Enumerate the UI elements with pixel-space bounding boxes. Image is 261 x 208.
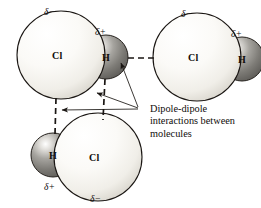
caption-line-3: molecules — [150, 128, 258, 140]
charge-label-h-top-left: δ+ — [95, 27, 106, 37]
leader-line-horizontal-bond — [121, 63, 138, 107]
atom-label-cl-top-left: Cl — [52, 50, 62, 61]
atom-label-h-top-right: H — [238, 54, 246, 65]
atom-label-cl-bottom: Cl — [89, 152, 99, 163]
interaction-bond-vertical-left — [55, 98, 56, 134]
charge-label-h-top-right: δ+ — [231, 29, 242, 39]
charge-label-h-bottom: δ+ — [44, 182, 55, 192]
annotation-caption: Dipole-dipole interactions between molec… — [150, 103, 258, 140]
charge-label-cl-top-left: δ− — [44, 7, 55, 17]
atom-label-cl-top-right: Cl — [188, 52, 198, 63]
leader-line-left-bond — [62, 109, 138, 110]
caption-line-2: interactions between — [150, 115, 258, 127]
charge-label-cl-top-right: δ− — [181, 9, 192, 19]
caption-line-1: Dipole-dipole — [150, 103, 258, 115]
charge-label-cl-bottom: δ− — [90, 194, 101, 204]
atom-label-h-bottom: H — [49, 150, 57, 161]
atom-label-h-top-left: H — [102, 52, 110, 63]
molecule-hcl-top-left — [17, 11, 128, 99]
figure-canvas: Cl H Cl H H Cl δ− δ+ δ− δ+ δ+ δ− Dipole-… — [0, 0, 261, 208]
